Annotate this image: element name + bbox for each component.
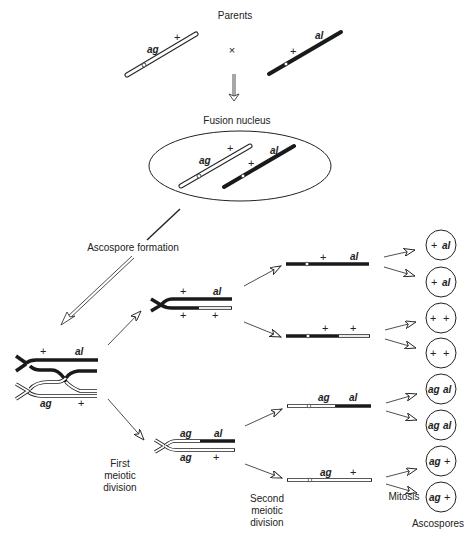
allele-plus-label: + [320, 251, 326, 263]
ascospore-allele-right: al [443, 420, 452, 431]
centromere-icon [241, 174, 245, 178]
allele-al-label: al [315, 30, 324, 41]
centromere-icon [306, 334, 310, 338]
down-arrow-icon [229, 74, 239, 101]
allele-al-label: al [270, 145, 279, 156]
connector-line [147, 209, 180, 240]
ascospore-allele-right: + [443, 312, 449, 324]
ascospore-allele-right: al [442, 277, 451, 288]
ascospore-allele-right: al [442, 240, 451, 251]
second-meiotic-division-label-1: Second [250, 493, 284, 504]
arrow-icon [245, 409, 282, 426]
centromere-icon [142, 63, 146, 67]
arrow-icon [108, 399, 144, 440]
ascospore-3: + + [426, 303, 456, 333]
ascospore-allele-left: ag [429, 492, 441, 503]
ascospore-2: + al [426, 267, 456, 297]
arrow-icon [386, 469, 417, 477]
centromere-icon [284, 62, 288, 66]
mitosis-label: Mitosis [388, 491, 419, 502]
allele-al-label: al [213, 286, 222, 297]
first-meiotic-division-label-2: meiotic [104, 470, 136, 481]
ascospore-allele-left: + [430, 347, 436, 359]
ascospore-allele-left: + [431, 276, 437, 288]
centromere-icon [305, 262, 309, 266]
arrow-icon [245, 464, 282, 478]
arrow-icon [385, 339, 416, 348]
arrow-icon [384, 250, 415, 257]
chromatid-plus-plus: + + [286, 322, 370, 338]
ascospore-allele-left: ag [429, 456, 441, 467]
allele-plus-label: + [212, 309, 218, 321]
allele-ag-label: ag [199, 155, 211, 166]
first-meiotic-division-label-1: First [110, 458, 130, 469]
ascospore-allele-left: + [431, 239, 437, 251]
dyad-bottom: ag al ag + [155, 428, 235, 463]
allele-plus-label: + [290, 45, 296, 57]
ascospore-4: + + [426, 338, 456, 368]
allele-plus-label: + [213, 451, 219, 463]
hollow-arrow-icon [61, 256, 134, 325]
allele-ag-label: ag [147, 44, 159, 55]
fusion-nucleus-label: Fusion nucleus [203, 115, 270, 126]
chromatid-ag-al: ag al [287, 392, 371, 408]
centromere-icon [307, 404, 311, 408]
arrow-icon [386, 411, 417, 420]
ascospores-label: Ascospores [412, 518, 464, 529]
arrow-icon [108, 311, 141, 345]
arrow-icon [384, 267, 415, 276]
allele-al-label: al [75, 346, 84, 357]
ascospore-7: ag + [426, 446, 456, 476]
second-meiotic-division-label-3: division [250, 517, 283, 528]
fusion-chromosome-al: + al [224, 145, 294, 187]
ascospore-allele-left: ag [428, 420, 440, 431]
parent-chromosome-ag: ag + [127, 31, 196, 75]
arrow-icon [386, 394, 417, 403]
centromere-icon [197, 174, 201, 178]
fusion-nucleus-ellipse [149, 131, 331, 201]
chromatid-plus-al: + al [286, 251, 369, 266]
chromatid-ag-plus: ag + [287, 466, 372, 482]
second-meiotic-division-label-2: meiotic [251, 505, 283, 516]
parent-chromosome-al: + al [269, 30, 341, 74]
allele-plus-label: + [174, 31, 180, 43]
ascospore-allele-right: + [444, 491, 450, 503]
allele-ag-label: ag [180, 452, 192, 463]
ascospore-5: ag al [426, 374, 456, 404]
ascospore-allele-right: al [443, 384, 452, 395]
arrow-icon [244, 322, 281, 337]
allele-al-label: al [349, 392, 358, 403]
ascospore-6: ag al [426, 410, 456, 440]
allele-plus-label: + [248, 157, 254, 169]
allele-plus-label: + [78, 397, 84, 409]
diagram-canvas: Parents ag + × + al Fusion nucleus ag + … [0, 0, 470, 536]
allele-al-label: al [350, 251, 359, 262]
first-meiotic-division-label-3: division [103, 482, 136, 493]
allele-ag-label: ag [40, 398, 52, 409]
tetrad-crossover: + al ag + [16, 345, 98, 409]
allele-ag-label: ag [320, 467, 332, 478]
ascospore-formation-label: Ascospore formation [87, 242, 179, 253]
ascospore-1: + al [426, 230, 456, 260]
cross-symbol: × [229, 44, 235, 56]
allele-plus-label: + [180, 285, 186, 297]
allele-ag-label: ag [318, 392, 330, 403]
dyad-top: + al + + [151, 285, 232, 321]
arrow-icon [244, 266, 281, 286]
allele-al-label: al [214, 428, 223, 439]
allele-plus-label: + [180, 309, 186, 321]
meiosis-diagram: Parents ag + × + al Fusion nucleus ag + … [0, 0, 470, 536]
ascospore-allele-right: + [444, 455, 450, 467]
allele-plus-label: + [350, 466, 356, 478]
allele-plus-label: + [227, 142, 233, 154]
ascospore-allele-right: + [443, 347, 449, 359]
allele-plus-label: + [40, 345, 46, 357]
centromere-icon [308, 478, 312, 482]
allele-plus-label: + [350, 322, 356, 334]
parents-title: Parents [218, 10, 252, 21]
allele-ag-label: ag [180, 428, 192, 439]
arrow-icon [385, 322, 416, 330]
ascospore-8: ag + [426, 482, 456, 512]
allele-plus-label: + [322, 322, 328, 334]
ascospore-allele-left: ag [428, 384, 440, 395]
